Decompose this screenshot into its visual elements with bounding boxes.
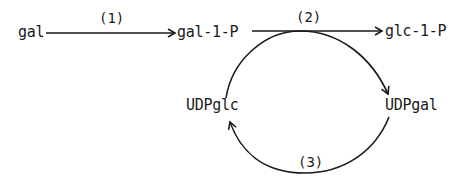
step-label-3: (3)	[298, 155, 323, 169]
node-gal: gal	[18, 25, 44, 40]
pathway-diagram: gal gal-1-P glc-1-P UDPglc UDPgal (1) (2…	[0, 0, 460, 186]
step-label-1: (1)	[99, 11, 124, 25]
step-label-2: (2)	[296, 10, 321, 24]
arc-udpglc-to-udpgal	[226, 31, 388, 98]
node-gal-1-p: gal-1-P	[177, 25, 238, 40]
node-udpgal: UDPgal	[385, 98, 437, 113]
node-udpglc: UDPglc	[186, 98, 238, 113]
node-glc-1-p: glc-1-P	[385, 24, 446, 39]
